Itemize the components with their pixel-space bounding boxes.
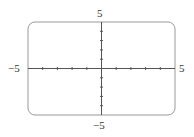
y-min-label: −5 (93, 120, 105, 131)
y-max-label: 5 (97, 8, 103, 19)
x-max-label: 5 (179, 63, 185, 74)
coordinate-plane (0, 0, 194, 137)
x-min-label: −5 (8, 63, 20, 74)
